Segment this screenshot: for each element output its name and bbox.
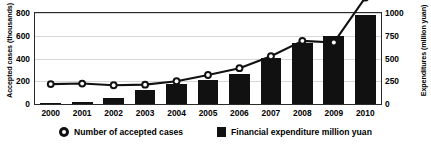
- y-axis-left-tick-label: 800: [6, 9, 30, 17]
- legend-label: Number of accepted cases: [74, 128, 183, 137]
- y-axis-right-tick-label: 750: [385, 32, 413, 40]
- dual-axis-chart: Accepted cases (thousands) Expenditures …: [0, 0, 431, 145]
- y-axis-right-title: Expenditures (million yuan): [419, 0, 428, 105]
- legend-entry[interactable]: Financial expenditure million yuan: [217, 127, 372, 137]
- plot-area: [34, 12, 382, 105]
- chart-legend: Number of accepted casesFinancial expend…: [0, 124, 431, 140]
- circle-marker-icon: [267, 52, 275, 60]
- line-series: [35, 13, 381, 104]
- legend-entry[interactable]: Number of accepted cases: [59, 127, 183, 137]
- y-axis-right-tick-label: 250: [385, 77, 413, 85]
- y-axis-left-tick-label: 600: [6, 32, 30, 40]
- circle-marker-icon: [59, 127, 69, 137]
- square-marker-icon: [217, 127, 226, 137]
- circle-marker-icon: [173, 77, 181, 85]
- y-axis-left-tick-label: 0: [6, 100, 30, 108]
- y-axis-right-tick-label: 500: [385, 55, 413, 63]
- legend-label: Financial expenditure million yuan: [231, 128, 372, 137]
- y-axis-left-tick-label: 200: [6, 77, 30, 85]
- line-markers: [47, 0, 369, 89]
- circle-marker-icon: [332, 41, 336, 45]
- circle-marker-icon: [204, 71, 212, 79]
- x-axis-tick-label: 2010: [345, 109, 385, 117]
- circle-marker-icon: [141, 81, 149, 89]
- y-axis-right-tick-label: 1000: [385, 9, 413, 17]
- circle-marker-icon: [110, 81, 118, 89]
- y-axis-right-tick-label: 0: [385, 100, 413, 108]
- circle-marker-icon: [78, 80, 86, 88]
- circle-marker-icon: [298, 37, 306, 45]
- circle-marker-icon: [47, 80, 55, 88]
- y-axis-left-tick-label: 400: [6, 55, 30, 63]
- circle-marker-icon: [236, 64, 244, 72]
